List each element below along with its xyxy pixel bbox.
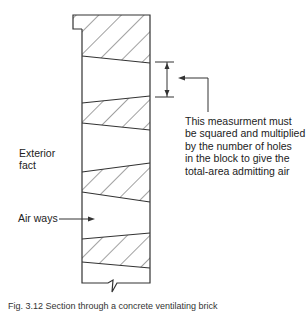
airways-label: Air ways [18, 212, 58, 224]
exterior-label-line: Exterior [19, 147, 55, 159]
exterior-face-label: Exterior fact [19, 147, 55, 172]
annotation-line: in the block to give the [185, 152, 305, 164]
airways-arrow [59, 217, 95, 222]
annotation-pointer [178, 76, 208, 113]
hatched-solid-3 [82, 163, 150, 202]
annotation-line: This measurment must [185, 115, 305, 127]
figure-caption: Fig. 3.12 Section through a concrete ven… [8, 300, 218, 312]
dimension-marker [155, 62, 174, 97]
hatched-solid-2 [82, 96, 150, 130]
exterior-label-line: fact [19, 159, 55, 171]
annotation-line: total-area admitting air [185, 165, 305, 177]
annotation-line: be squared and multiplied [185, 127, 305, 139]
annotation-line: by the number of holes [185, 140, 305, 152]
measurement-annotation: This measurment must be squared and mult… [185, 115, 305, 177]
